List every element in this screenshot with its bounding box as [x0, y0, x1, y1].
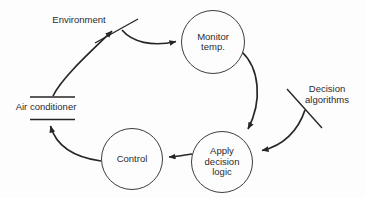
- node-monitor-temp-label-line2: temp.: [201, 42, 225, 53]
- node-apply-decision-logic: Apply decision logic: [191, 131, 253, 193]
- edge-control-to-air-conditioner: [51, 126, 102, 161]
- edge-decision-algorithms-to-apply-decision-logic: [262, 110, 305, 151]
- node-control: Control: [101, 128, 163, 190]
- decision-algorithms-label-line2: algorithms: [296, 95, 358, 106]
- label-environment: Environment: [45, 15, 113, 26]
- label-decision-algorithms: Decision algorithms: [296, 84, 358, 105]
- edge-environment-to-monitor-temp: [122, 30, 176, 44]
- air-conditioner-label-text: Air conditioner: [16, 101, 77, 112]
- label-air-conditioner: Air conditioner: [3, 102, 89, 113]
- control-loop-diagram: Monitor temp. Apply decision logic Contr…: [0, 0, 365, 198]
- edge-apply-decision-logic-to-control: [169, 154, 192, 157]
- environment-label-text: Environment: [52, 14, 105, 25]
- decision-algorithms-label-line1: Decision: [296, 84, 358, 95]
- edge-monitor-temp-to-apply-decision-logic: [242, 52, 257, 129]
- node-apply-decision-logic-label-line3: logic: [212, 167, 232, 178]
- edge-air-conditioner-to-environment: [53, 31, 112, 96]
- node-monitor-temp: Monitor temp.: [181, 10, 245, 74]
- node-control-label: Control: [117, 154, 148, 165]
